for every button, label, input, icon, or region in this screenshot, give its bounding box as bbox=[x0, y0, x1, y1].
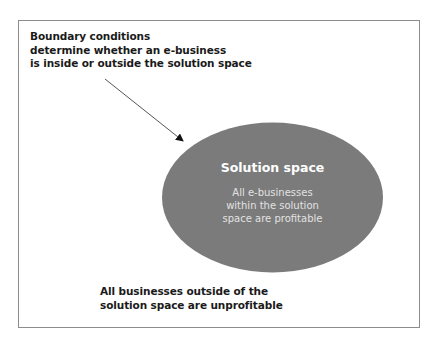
boundary-conditions-note: Boundary conditions determine whether an… bbox=[30, 30, 252, 71]
description-line: space are profitable bbox=[162, 212, 383, 225]
note-line: determine whether an e-business bbox=[30, 44, 252, 58]
solution-space-description: All e-businesses within the solution spa… bbox=[162, 186, 383, 225]
note-line: All businesses outside of the bbox=[100, 285, 283, 299]
description-line: within the solution bbox=[162, 199, 383, 212]
solution-space-title: Solution space bbox=[162, 160, 383, 175]
note-line: is inside or outside the solution space bbox=[30, 57, 252, 71]
unprofitable-note: All businesses outside of the solution s… bbox=[100, 285, 283, 312]
description-line: All e-businesses bbox=[162, 186, 383, 199]
solution-space-label: Solution space All e-businesses within t… bbox=[162, 123, 383, 273]
note-line: Boundary conditions bbox=[30, 30, 252, 44]
note-line: solution space are unprofitable bbox=[100, 299, 283, 313]
